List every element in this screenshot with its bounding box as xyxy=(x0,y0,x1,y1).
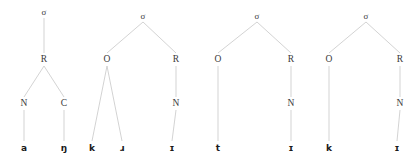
tree-leaf-label: t xyxy=(215,144,221,153)
tree-node-label: R xyxy=(396,55,404,65)
tree-branch xyxy=(24,66,44,97)
tree-branch xyxy=(397,110,400,141)
tree-leaf-label: ŋ xyxy=(60,144,68,153)
tree-node-label: O xyxy=(103,55,112,65)
tree-branch xyxy=(107,22,143,53)
tree-branch xyxy=(329,22,366,53)
tree-node-label: σ xyxy=(41,8,48,17)
tree-branch xyxy=(44,66,64,97)
tree-leaf-label: k xyxy=(88,144,96,153)
tree-leaf-label: ɪ xyxy=(169,144,176,153)
tree-node-label: C xyxy=(60,99,68,109)
tree-leaf-label: ɪ xyxy=(288,144,295,153)
tree-leaf-label: k xyxy=(325,144,333,153)
tree-node-label: σ xyxy=(363,12,370,21)
tree-node-label: N xyxy=(20,99,29,109)
tree-node-label: R xyxy=(287,55,295,65)
tree-branch xyxy=(92,66,107,141)
tree-branch xyxy=(172,110,176,141)
tree-leaf-label: ɹ xyxy=(119,144,126,153)
syllable-trees-figure: σRNCaŋσORNkɹɪσORNtɪσORNkɪ xyxy=(0,0,417,165)
tree-branch xyxy=(143,22,176,53)
tree-node-label: O xyxy=(214,55,223,65)
tree-node-label: R xyxy=(40,55,48,65)
tree-leaf-label: a xyxy=(20,144,28,153)
tree-branch xyxy=(257,22,291,53)
tree-branch xyxy=(107,66,122,141)
tree-branch-layer xyxy=(0,0,417,165)
tree-node-label: σ xyxy=(254,12,261,21)
tree-node-label: σ xyxy=(140,12,147,21)
tree-branch xyxy=(218,22,257,53)
tree-node-label: O xyxy=(325,55,334,65)
tree-node-label: R xyxy=(172,55,180,65)
tree-node-label: N xyxy=(287,99,296,109)
tree-node-label: N xyxy=(172,99,181,109)
tree-leaf-label: ɪ xyxy=(394,144,401,153)
tree-node-label: N xyxy=(396,99,405,109)
tree-branch xyxy=(366,22,400,53)
